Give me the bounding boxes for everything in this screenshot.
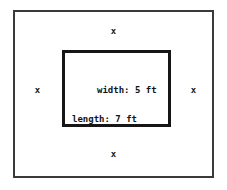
border-marker-top-x: x [109, 27, 118, 36]
length-label: length: 7 ft [72, 114, 137, 124]
border-marker-right-x: x [189, 86, 198, 95]
border-marker-bottom-x: x [109, 150, 118, 159]
width-label: width: 5 ft [97, 85, 157, 95]
geometry-diagram: width: 5 ft length: 7 ft x x x x [0, 0, 227, 190]
border-marker-left-x: x [33, 86, 42, 95]
